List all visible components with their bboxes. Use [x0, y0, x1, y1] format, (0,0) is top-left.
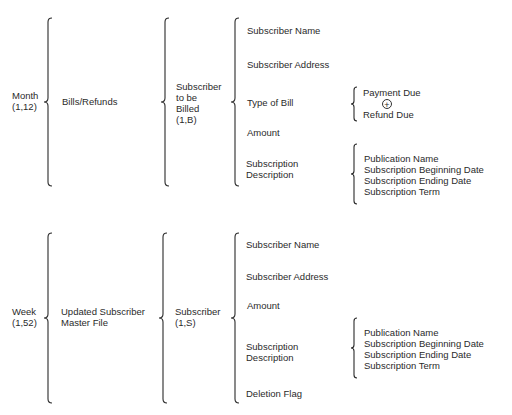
level1-label: Bills/Refunds [62, 96, 117, 107]
field-label: Amount [247, 127, 280, 138]
level2-line: (1,S) [175, 317, 196, 328]
field-label: Amount [247, 300, 280, 311]
level2-line: Billed [176, 103, 199, 114]
child-label: Subscription Ending Date [364, 349, 471, 360]
brace-icon [231, 18, 241, 186]
child-label: Publication Name [364, 153, 438, 164]
child-label: Subscription Beginning Date [364, 338, 484, 349]
child-label: Subscription Ending Date [364, 175, 471, 186]
field-label: Type of Bill [247, 97, 293, 108]
root-label: Month [12, 90, 38, 101]
level2-line: to be [176, 92, 197, 103]
level2-line: Subscriber [175, 306, 220, 317]
field-label: Subscriber Address [247, 59, 329, 70]
brace-icon [350, 87, 358, 121]
brace-icon [350, 318, 358, 378]
field-label: Subscription [246, 341, 298, 352]
field-label: Subscriber Name [247, 25, 320, 36]
child-label: Subscription Term [364, 186, 440, 197]
child-label: Subscription Beginning Date [364, 164, 484, 175]
level1-label: Updated Subscriber [61, 306, 145, 317]
field-label: Description [246, 169, 294, 180]
level1-label: Master File [61, 317, 108, 328]
field-label: Subscriber Name [246, 239, 319, 250]
root-repeat: (1,12) [12, 101, 37, 112]
option-label: Payment Due [363, 87, 421, 98]
brace-icon [350, 144, 358, 204]
field-label: Subscriber Address [246, 271, 328, 282]
field-label: Deletion Flag [246, 388, 302, 399]
field-label: Description [246, 352, 294, 363]
child-label: Subscription Term [364, 360, 440, 371]
level2-line: Subscriber [176, 81, 221, 92]
brace-icon [44, 233, 54, 403]
brace-icon [44, 18, 54, 186]
exclusive-or-icon: + [382, 99, 392, 109]
brace-icon [161, 18, 171, 186]
field-label: Subscription [246, 158, 298, 169]
child-label: Publication Name [364, 327, 438, 338]
brace-icon [159, 233, 169, 403]
root-label: Week [12, 306, 36, 317]
root-repeat: (1,52) [12, 317, 37, 328]
option-label: Refund Due [363, 109, 414, 120]
brace-icon [231, 233, 241, 403]
level2-line: (1,B) [176, 114, 197, 125]
